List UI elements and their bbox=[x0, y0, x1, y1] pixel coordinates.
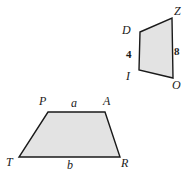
vertex-label-p: P bbox=[39, 95, 46, 107]
trapezoid-patr-shape bbox=[19, 112, 120, 157]
side-measure-label-4: 4 bbox=[126, 49, 132, 60]
side-measure-label-8: 8 bbox=[174, 46, 180, 57]
vertex-label-t: T bbox=[6, 156, 13, 168]
side-variable-label-b: b bbox=[67, 159, 73, 171]
vertex-label-r: R bbox=[121, 157, 128, 169]
trapezoid-dzoi-shape bbox=[139, 18, 173, 78]
side-variable-label-a: a bbox=[71, 97, 77, 109]
vertex-label-i: I bbox=[126, 70, 130, 82]
vertex-label-o: O bbox=[172, 79, 181, 91]
geometry-figure-canvas bbox=[0, 0, 193, 173]
vertex-label-a-vertex: A bbox=[103, 95, 110, 107]
vertex-label-d: D bbox=[122, 24, 131, 36]
vertex-label-z: Z bbox=[174, 5, 181, 17]
